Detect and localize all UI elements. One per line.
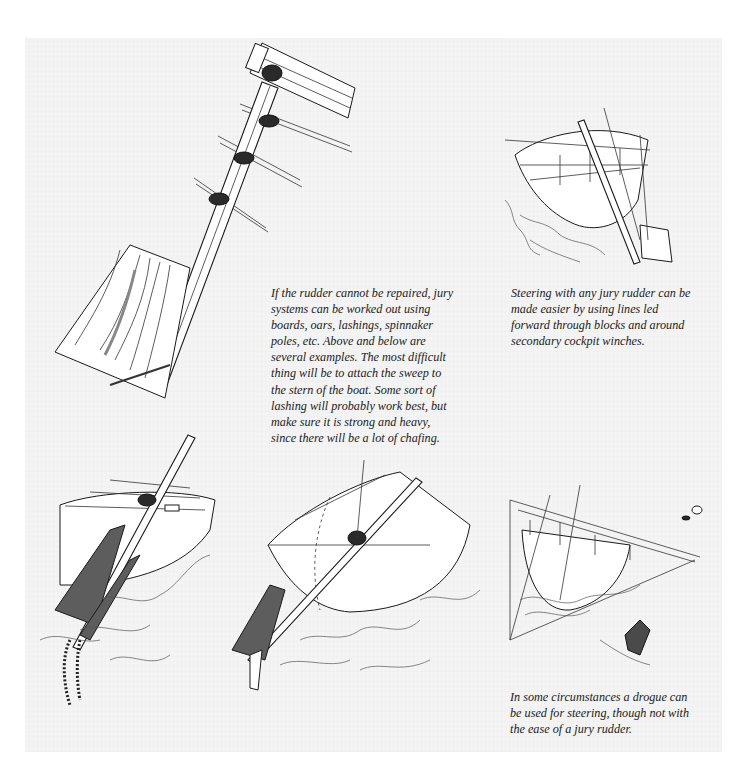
caption-line: lashing will probably work best, but [271,398,453,414]
caption-line: forward through blocks and around [511,317,690,333]
caption-line: poles, etc. Above and below are [271,333,453,349]
drogue-icon [625,620,650,655]
caption-line: secondary cockpit winches. [511,333,690,349]
caption-line: If the rudder cannot be repaired, jury [271,285,453,301]
caption-line: the ease of a jury rudder. [510,721,689,737]
caption-steering-lines: Steering with any jury rudder can be mad… [511,285,690,349]
caption-line: boards, oars, lashings, spinnaker [271,317,453,333]
caption-line: In some circumstances a drogue can [510,689,689,705]
caption-line: make sure it is strong and heavy, [271,414,453,430]
caption-line: made easier by using lines led [511,301,690,317]
caption-line: several examples. The most difficult [271,349,453,365]
caption-line: the stern of the boat. Some sort of [271,382,453,398]
caption-line: since there will be a lot of chafing. [271,430,453,446]
caption-line: thing will be to attach the sweep to [271,365,453,381]
caption-main: If the rudder cannot be repaired, jury s… [271,285,453,446]
caption-line: Steering with any jury rudder can be [511,285,690,301]
caption-line: systems can be worked out using [271,301,453,317]
caption-drogue: In some circumstances a drogue can be us… [510,689,689,737]
caption-line: be used for steering, though not with [510,705,689,721]
winch-icon [692,506,702,514]
block-icon [682,516,690,520]
